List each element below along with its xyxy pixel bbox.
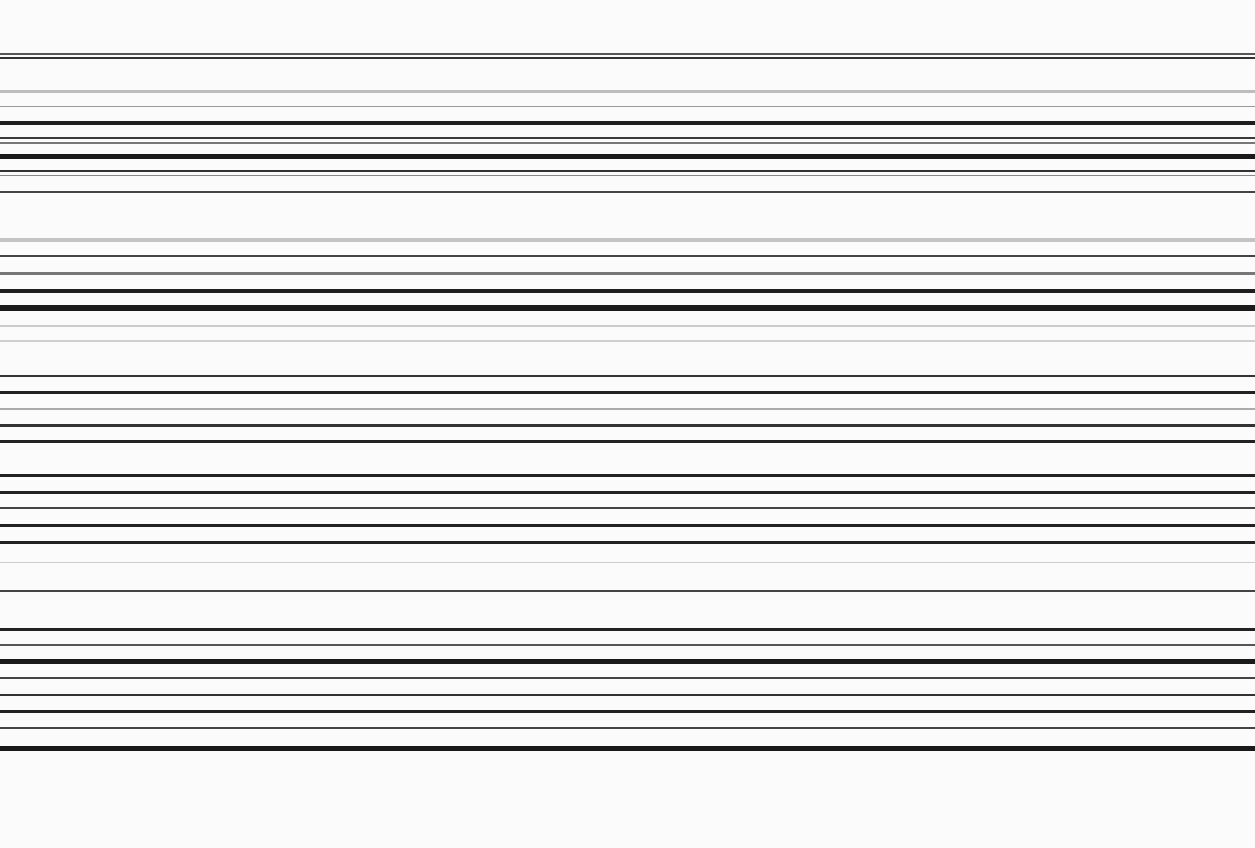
horizontal-stripe (0, 272, 1255, 275)
horizontal-stripe (0, 154, 1255, 159)
horizontal-stripe (0, 562, 1255, 563)
horizontal-stripe (0, 408, 1255, 410)
horizontal-stripe (0, 255, 1255, 257)
horizontal-stripe (0, 137, 1255, 139)
horizontal-stripe (0, 289, 1255, 293)
horizontal-stripe (0, 474, 1255, 477)
horizontal-stripe (0, 191, 1255, 193)
horizontal-stripe (0, 659, 1255, 664)
horizontal-stripe (0, 507, 1255, 509)
horizontal-stripe (0, 541, 1255, 544)
horizontal-stripe (0, 175, 1255, 176)
horizontal-stripe (0, 590, 1255, 592)
horizontal-stripe (0, 170, 1255, 172)
horizontal-stripe (0, 440, 1255, 443)
horizontal-stripe (0, 694, 1255, 696)
horizontal-stripe (0, 121, 1255, 125)
horizontal-stripe (0, 391, 1255, 394)
horizontal-stripe (0, 524, 1255, 527)
horizontal-stripe (0, 727, 1255, 729)
horizontal-stripe (0, 340, 1255, 342)
horizontal-stripe (0, 53, 1255, 55)
horizontal-stripe (0, 710, 1255, 713)
striped-canvas (0, 0, 1255, 848)
horizontal-stripe (0, 305, 1255, 311)
horizontal-stripe (0, 491, 1255, 494)
horizontal-stripe (0, 90, 1255, 93)
horizontal-stripe (0, 746, 1255, 751)
horizontal-stripe (0, 375, 1255, 377)
horizontal-stripe (0, 628, 1255, 631)
horizontal-stripe (0, 106, 1255, 107)
horizontal-stripe (0, 644, 1255, 646)
horizontal-stripe (0, 677, 1255, 679)
horizontal-stripe (0, 57, 1255, 59)
horizontal-stripe (0, 424, 1255, 427)
horizontal-stripe (0, 238, 1255, 242)
horizontal-stripe (0, 142, 1255, 144)
horizontal-stripe (0, 325, 1255, 327)
